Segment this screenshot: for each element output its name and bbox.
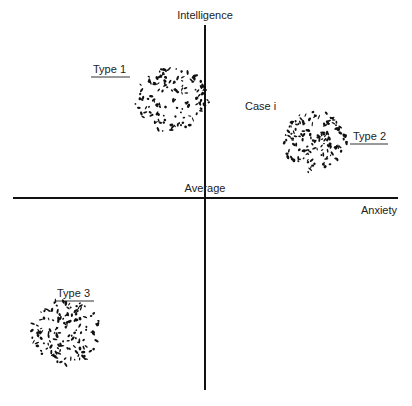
cluster-speck xyxy=(88,349,92,353)
average-label: Average xyxy=(185,182,226,194)
cluster-speck xyxy=(56,360,58,363)
intelligence-axis-label: Intelligence xyxy=(177,9,233,21)
cluster-speck xyxy=(326,149,328,153)
scatter-diagram: Intelligence Average Anxiety Case i Type… xyxy=(0,0,412,406)
cluster-speck xyxy=(144,106,147,110)
cluster-speck xyxy=(167,67,171,71)
cluster-speck xyxy=(161,89,164,93)
cluster-speck xyxy=(184,92,188,93)
cluster-speck xyxy=(307,117,311,122)
type-3-cluster xyxy=(29,299,100,368)
cluster-speck xyxy=(196,89,200,93)
cluster-speck xyxy=(151,98,156,102)
cluster-speck xyxy=(66,312,69,317)
cluster-speck xyxy=(181,121,184,124)
cluster-speck xyxy=(50,307,53,312)
cluster-speck xyxy=(181,80,184,82)
cluster-speck xyxy=(97,320,100,323)
cluster-speck xyxy=(35,344,39,348)
cluster-speck xyxy=(34,341,39,344)
cluster-speck xyxy=(78,346,81,350)
type-2-cluster xyxy=(282,111,348,174)
cluster-speck xyxy=(83,316,88,319)
cluster-speck xyxy=(304,113,307,117)
cluster-speck xyxy=(301,130,305,132)
cluster-speck xyxy=(78,323,82,328)
cluster-speck xyxy=(147,75,150,78)
cluster-speck xyxy=(78,302,81,305)
cluster-speck xyxy=(195,112,198,115)
cluster-speck xyxy=(320,144,323,148)
cluster-speck xyxy=(149,95,154,98)
cluster-speck xyxy=(322,152,324,157)
cluster-speck xyxy=(195,103,199,106)
cluster-speck xyxy=(49,344,54,350)
cluster-speck xyxy=(71,334,73,337)
cluster-speck xyxy=(157,88,161,92)
cluster-speck xyxy=(290,137,294,139)
cluster-speck xyxy=(75,305,78,308)
cluster-speck xyxy=(287,134,292,138)
cluster-speck xyxy=(58,313,62,317)
cluster-speck xyxy=(166,86,168,88)
cluster-speck xyxy=(307,171,309,174)
cluster-speck xyxy=(162,121,165,124)
cluster-speck xyxy=(29,328,34,333)
cluster-speck xyxy=(134,103,136,105)
cluster-speck xyxy=(70,336,75,342)
cluster-speck xyxy=(139,83,142,86)
cluster-speck xyxy=(139,87,143,92)
cluster-speck xyxy=(42,316,45,320)
cluster-speck xyxy=(82,338,86,342)
cluster-speck xyxy=(180,111,183,113)
cluster-speck xyxy=(50,350,52,355)
cluster-speck xyxy=(290,125,292,128)
cluster-speck xyxy=(85,328,88,331)
cluster-speck xyxy=(330,154,331,156)
cluster-speck xyxy=(183,87,187,90)
cluster-speck xyxy=(169,129,174,131)
cluster-speck xyxy=(324,111,328,115)
cluster-speck xyxy=(56,309,59,314)
cluster-speck xyxy=(84,345,88,349)
cluster-speck xyxy=(181,87,184,91)
cluster-speck xyxy=(52,319,55,322)
cluster-speck xyxy=(323,143,325,145)
cluster-speck xyxy=(92,311,96,315)
cluster-speck xyxy=(70,356,72,361)
cluster-speck xyxy=(297,156,299,161)
cluster-speck xyxy=(311,142,314,145)
type-1-cluster xyxy=(134,67,210,133)
cluster-speck xyxy=(289,120,294,124)
cluster-speck xyxy=(42,342,45,345)
cluster-speck xyxy=(172,98,175,103)
cluster-speck xyxy=(72,345,76,349)
cluster-speck xyxy=(286,154,290,159)
cluster-speck xyxy=(286,129,291,134)
cluster-speck xyxy=(163,115,165,117)
cluster-speck xyxy=(163,118,166,121)
cluster-speck xyxy=(292,130,295,134)
cluster-speck xyxy=(148,106,151,109)
cluster-speck xyxy=(188,124,192,127)
cluster-speck xyxy=(170,89,173,92)
cluster-speck xyxy=(188,115,192,117)
cluster-speck xyxy=(147,98,150,101)
cluster-speck xyxy=(59,349,61,353)
cluster-speck xyxy=(175,68,177,70)
type-3-label: Type 3 xyxy=(57,287,90,299)
cluster-speck xyxy=(321,138,324,140)
cluster-speck xyxy=(285,153,288,155)
cluster-speck xyxy=(191,117,194,122)
cluster-speck xyxy=(309,158,314,163)
cluster-speck xyxy=(298,135,301,137)
cluster-speck xyxy=(159,70,161,72)
cluster-speck xyxy=(140,111,144,116)
cluster-speck xyxy=(71,313,74,317)
cluster-speck xyxy=(55,304,58,307)
cluster-speck xyxy=(64,362,68,367)
cluster-speck xyxy=(75,337,77,340)
cluster-speck xyxy=(90,315,93,317)
cluster-speck xyxy=(335,121,337,124)
case-label: Case i xyxy=(245,100,276,112)
